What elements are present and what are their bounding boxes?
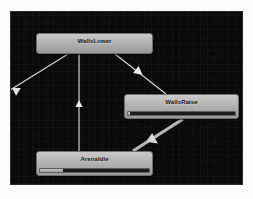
state-node-walls-raise[interactable]: WallsRaise — [124, 94, 239, 119]
transition-walls-lower-to-walls-raise[interactable] — [115, 54, 166, 94]
state-progress-fill — [128, 112, 130, 115]
transition-walls-lower-to-offscreen-left[interactable] — [11, 54, 68, 96]
animator-graph-panel[interactable]: WallsLower WallsRaise ArenaIdle — [10, 11, 243, 185]
state-progress-fill — [40, 169, 63, 172]
state-node-label: WallsLower — [37, 34, 152, 49]
transition-arena-idle-to-walls-lower[interactable] — [76, 54, 83, 151]
screenshot-root: WallsLower WallsRaise ArenaIdle — [0, 0, 253, 199]
transition-arena-idle-to-walls-raise[interactable] — [133, 119, 183, 151]
state-node-label: WallsRaise — [125, 95, 238, 110]
state-progress-bar — [127, 111, 236, 116]
state-node-arena-idle[interactable]: ArenaIdle — [36, 151, 153, 176]
state-progress-bar — [39, 168, 150, 173]
state-node-walls-lower[interactable]: WallsLower — [36, 33, 153, 54]
state-node-label: ArenaIdle — [37, 152, 152, 167]
